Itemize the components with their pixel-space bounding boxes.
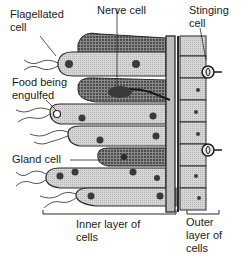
label-gland-cell: Gland cell — [12, 153, 61, 166]
food-engulfing-cell — [16, 104, 166, 124]
label-inner-layer: Inner layer of cells — [76, 218, 140, 244]
label-nerve-cell: Nerve cell — [97, 4, 146, 17]
flagellated-cell-2 — [30, 126, 166, 146]
outer-layer-bracket — [187, 210, 219, 214]
gland-cell-bottom — [98, 148, 166, 166]
inner-layer-bracket — [43, 210, 176, 214]
flagellated-cell-3 — [16, 168, 166, 188]
label-stinging-cell: Stinging cell — [189, 4, 229, 30]
flagellated-cell — [24, 52, 166, 76]
flagellated-leader — [40, 36, 56, 56]
stinging-cell-2 — [202, 144, 222, 156]
outer-layer — [180, 36, 206, 210]
label-food-engulfed: Food being engulfed — [12, 76, 67, 102]
mesoglea — [166, 36, 178, 212]
label-flagellated-cell: Flagellated cell — [10, 8, 64, 34]
label-outer-layer: Outer layer of cells — [186, 216, 222, 255]
flagellated-cell-4 — [40, 188, 176, 208]
